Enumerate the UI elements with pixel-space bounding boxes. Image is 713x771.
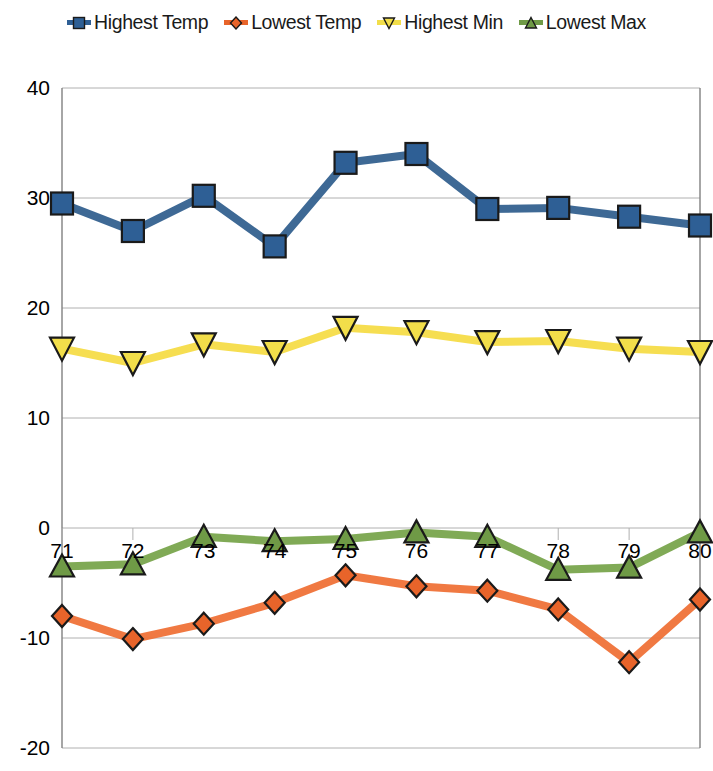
y-axis-tick-label: 0 (0, 517, 50, 538)
data-point (477, 580, 497, 602)
data-point (405, 143, 427, 165)
legend-item-0[interactable]: Highest Temp (67, 12, 208, 32)
x-axis-tick-label: 79 (599, 540, 659, 561)
chart-svg (0, 40, 713, 771)
x-axis-tick-label: 75 (316, 540, 376, 561)
x-axis-tick-label: 78 (528, 540, 588, 561)
x-axis-tick-label: 77 (457, 540, 517, 561)
data-point (406, 575, 426, 597)
legend-label: Highest Temp (94, 12, 208, 32)
legend-item-3[interactable]: Lowest Max (519, 12, 646, 32)
gridlines (62, 88, 700, 748)
legend-label: Highest Min (404, 12, 503, 32)
x-axis-tick-label: 74 (245, 540, 305, 561)
y-axis-tick-label: 30 (0, 187, 50, 208)
data-point (122, 220, 144, 242)
triangle-down-icon (377, 12, 401, 32)
legend-label: Lowest Temp (251, 12, 361, 32)
diamond-icon (224, 12, 248, 32)
data-point (52, 605, 72, 627)
legend-item-1[interactable]: Lowest Temp (224, 12, 361, 32)
x-axis-tick-label: 71 (32, 540, 92, 561)
plot-area: 403020100-10-2071727374757677787980 (0, 40, 713, 771)
square-icon (67, 12, 91, 32)
data-point (476, 198, 498, 220)
data-point (193, 185, 215, 207)
data-point (194, 613, 214, 635)
data-point (264, 235, 286, 257)
data-point (547, 197, 569, 219)
data-point (689, 215, 711, 237)
x-axis-tick-label: 76 (386, 540, 446, 561)
legend-item-2[interactable]: Highest Min (377, 12, 503, 32)
x-axis-tick-label: 80 (670, 540, 713, 561)
y-axis-tick-label: 20 (0, 297, 50, 318)
chart-container: Highest TempLowest TempHighest MinLowest… (0, 0, 713, 771)
data-point (618, 206, 640, 228)
x-axis-tick-label: 72 (103, 540, 163, 561)
series-highest-temp (51, 143, 711, 257)
y-axis-tick-label: -20 (0, 737, 50, 758)
y-axis-tick-label: 40 (0, 77, 50, 98)
series-highest-min (50, 317, 712, 375)
legend-label: Lowest Max (546, 12, 646, 32)
data-point (336, 564, 356, 586)
y-axis-tick-label: -10 (0, 627, 50, 648)
triangle-up-icon (519, 12, 543, 32)
series-lowest-temp (52, 564, 710, 673)
data-point (335, 152, 357, 174)
data-point (51, 193, 73, 215)
chart-legend: Highest TempLowest TempHighest MinLowest… (0, 4, 713, 40)
data-point (265, 592, 285, 614)
y-axis-tick-label: 10 (0, 407, 50, 428)
x-axis-tick-label: 73 (174, 540, 234, 561)
data-point (123, 628, 143, 650)
